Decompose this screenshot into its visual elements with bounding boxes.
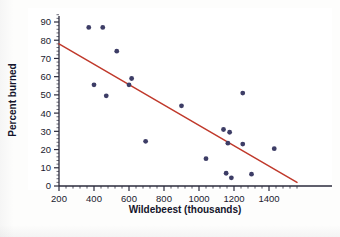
x-tick-label: 200 — [51, 193, 67, 204]
x-tick-label: 800 — [156, 193, 172, 204]
data-point — [221, 127, 226, 132]
x-axis-title: Wildebeest (thousands) — [129, 204, 242, 215]
x-tick-label: 400 — [86, 193, 102, 204]
plot-area-background — [28, 8, 332, 190]
data-point — [224, 171, 229, 176]
y-axis-title: Percent burned — [7, 63, 18, 136]
y-tick-label: 70 — [40, 53, 51, 64]
data-point — [104, 93, 109, 98]
y-tick-label: 80 — [40, 35, 51, 46]
data-point — [240, 142, 245, 147]
scatter-plot-figure: 0102030405060708090 Percent burned 20040… — [0, 0, 340, 237]
data-point — [129, 76, 134, 81]
data-point — [92, 82, 97, 87]
y-tick-label: 20 — [40, 144, 51, 155]
y-tick-label: 60 — [40, 71, 51, 82]
data-point — [204, 156, 209, 161]
data-point — [272, 146, 277, 151]
x-tick-label: 1000 — [188, 193, 209, 204]
data-point — [100, 25, 105, 30]
y-tick-label: 40 — [40, 108, 51, 119]
data-point — [227, 130, 232, 135]
x-tick-label: 1400 — [258, 193, 279, 204]
x-tick-label: 1200 — [223, 193, 244, 204]
chart-canvas: 0102030405060708090 Percent burned 20040… — [0, 0, 340, 237]
y-tick-label: 50 — [40, 89, 51, 100]
data-point — [240, 91, 245, 96]
y-tick-label: 90 — [40, 16, 51, 27]
data-point — [86, 25, 91, 30]
data-point — [179, 103, 184, 108]
data-point — [143, 139, 148, 144]
data-point — [127, 82, 132, 87]
data-point — [225, 141, 230, 146]
data-point — [229, 175, 234, 180]
data-point — [249, 172, 254, 177]
data-point — [114, 49, 119, 54]
x-tick-label: 600 — [121, 193, 137, 204]
y-tick-label: 10 — [40, 162, 51, 173]
y-tick-label: 30 — [40, 126, 51, 137]
y-tick-label: 0 — [46, 180, 51, 191]
